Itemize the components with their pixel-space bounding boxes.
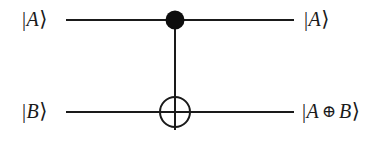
ket-symbol: A [309, 8, 321, 30]
ket-symbol-left: A [307, 100, 319, 122]
ket-symbol: B [27, 100, 39, 122]
ket-symbol: A [27, 8, 39, 30]
output-label-top: |A⟩ [304, 9, 329, 30]
input-label-top: |A⟩ [22, 9, 47, 30]
ket-angle: ⟩ [321, 7, 330, 31]
output-label-bottom: |A⊕B⟩ [302, 101, 360, 122]
ket-angle: ⟩ [39, 99, 48, 123]
ket-symbol-right: B [339, 100, 351, 122]
control-dot [166, 11, 185, 30]
ket-angle: ⟩ [39, 7, 48, 31]
xor-operator-icon: ⊕ [319, 102, 339, 121]
cnot-circuit-diagram: |A⟩ |B⟩ |A⟩ |A⊕B⟩ [0, 0, 387, 142]
ket-angle: ⟩ [351, 99, 360, 123]
input-label-bottom: |B⟩ [22, 101, 47, 122]
